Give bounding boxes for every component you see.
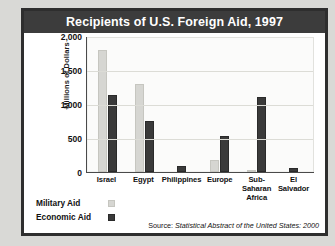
chart-legend: Military AidEconomic Aid (36, 196, 156, 224)
legend-swatch-eco (108, 214, 115, 221)
bar-economic-aid (108, 95, 117, 172)
bar-military-aid (135, 84, 144, 172)
bar-economic-aid (289, 168, 298, 172)
chart-figure: Recipients of U.S. Foreign Aid, 1997 Mil… (0, 0, 335, 246)
gridline (87, 139, 314, 140)
gridline (87, 105, 314, 106)
x-tick-label: El Salvador (275, 175, 312, 202)
bar-military-aid (247, 170, 256, 173)
chart-title: Recipients of U.S. Foreign Aid, 1997 (66, 15, 283, 29)
x-tick-label: Sub-Saharan Africa (238, 175, 275, 202)
bar-economic-aid (145, 121, 154, 172)
legend-swatch-mil (108, 200, 115, 207)
plot-canvas (86, 37, 314, 173)
source-citation: Statistical Abstract of the United State… (175, 221, 319, 230)
chart-frame: Recipients of U.S. Foreign Aid, 1997 Mil… (21, 8, 328, 236)
bar-economic-aid (220, 136, 229, 172)
legend-item: Military Aid (36, 196, 156, 210)
source-label: Source: (148, 221, 173, 230)
legend-label: Military Aid (36, 198, 108, 208)
bar-military-aid (98, 50, 107, 172)
chart-body: Millions of Dollars 2,0001,5001,0005000 … (24, 33, 325, 233)
y-tick-label: 500 (42, 134, 82, 144)
bar-economic-aid (177, 166, 186, 172)
y-tick-label: 1,000 (42, 100, 82, 110)
y-tick-label: 2,000 (42, 32, 82, 42)
legend-label: Economic Aid (36, 212, 108, 222)
gridline (87, 37, 314, 38)
y-axis-ticks: 2,0001,5001,0005000 (42, 37, 82, 173)
y-tick-label: 1,500 (42, 66, 82, 76)
x-tick-label: Philippines (162, 175, 201, 202)
source-note: Source: Statistical Abstract of the Unit… (134, 221, 319, 230)
gridline (87, 71, 314, 72)
bar-economic-aid (257, 97, 266, 172)
bar-military-aid (210, 160, 219, 172)
plot-area: Millions of Dollars 2,0001,5001,0005000 … (32, 37, 318, 195)
chart-title-bar: Recipients of U.S. Foreign Aid, 1997 (24, 11, 325, 33)
x-tick-label: Europe (201, 175, 238, 202)
y-tick-label: 0 (42, 168, 82, 178)
